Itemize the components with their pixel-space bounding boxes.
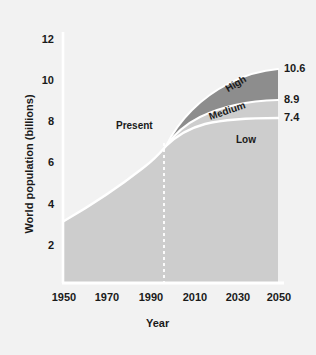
- x-tick-1950: 1950: [44, 292, 84, 303]
- y-axis-title: World population (billions): [23, 94, 35, 233]
- x-tick-2010: 2010: [175, 292, 215, 303]
- x-tick-2030: 2030: [218, 292, 258, 303]
- x-axis-title: Year: [146, 318, 169, 329]
- population-projection-chart: 12 10 8 6 4 2 1950 1970 1990 2010 2030 2…: [0, 0, 316, 355]
- x-tick-1990: 1990: [131, 292, 171, 303]
- end-value-low: 7.4: [284, 112, 299, 123]
- y-tick-12: 12: [32, 34, 54, 45]
- end-value-high: 10.6: [284, 63, 305, 74]
- present-label: Present: [116, 121, 153, 131]
- end-value-medium: 8.9: [284, 94, 299, 105]
- curve-label-low: Low: [236, 135, 256, 145]
- x-tick-2050: 2050: [259, 292, 299, 303]
- x-tick-1970: 1970: [87, 292, 127, 303]
- y-axis-title-wrap: World population (billions): [19, 84, 37, 244]
